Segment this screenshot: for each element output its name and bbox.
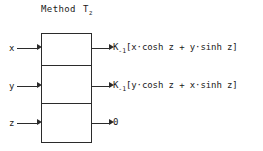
output-body-3: 0	[113, 117, 118, 127]
input-label-x: x	[9, 42, 14, 54]
block-divider-1	[42, 65, 91, 66]
input-wire-2	[17, 86, 39, 87]
input-arrowhead-2	[37, 82, 42, 88]
signal-row-3: z 0	[0, 116, 263, 130]
block-divider-2	[42, 103, 91, 104]
output-expression-1: K-1[x·cosh z + y·sinh z]	[113, 41, 238, 58]
signal-row-1: x K-1[x·cosh z + y·sinh z]	[0, 41, 263, 55]
output-expression-3: 0	[113, 116, 118, 133]
output-subscript-2: -1	[118, 85, 126, 93]
input-arrowhead-1	[37, 44, 42, 50]
output-body-1: [x·cosh z + y·sinh z]	[126, 42, 238, 52]
output-expression-2: K-1[y·cosh z + x·sinh z]	[113, 79, 238, 96]
input-wire-3	[17, 123, 39, 124]
title-method-word: Method	[41, 4, 76, 14]
diagram-canvas: MethodTz x K-1[x·cosh z + y·sinh z] y K-…	[0, 0, 263, 151]
input-label-z: z	[9, 117, 14, 129]
output-body-2: [y·cosh z + x·sinh z]	[126, 80, 238, 90]
title-operator-subscript: z	[89, 9, 93, 17]
input-label-y: y	[9, 80, 14, 92]
output-subscript-1: -1	[118, 47, 126, 55]
input-arrowhead-3	[37, 119, 42, 125]
diagram-title: MethodTz	[41, 4, 93, 17]
signal-row-2: y K-1[y·cosh z + x·sinh z]	[0, 79, 263, 93]
input-wire-1	[17, 48, 39, 49]
